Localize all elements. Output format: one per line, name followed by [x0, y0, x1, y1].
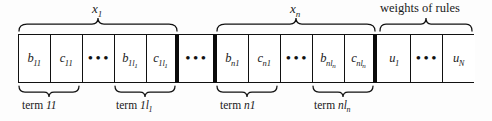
cell-bnln-text: bnln — [320, 52, 336, 65]
label-xn-sub: n — [296, 9, 301, 19]
cell-c11-text: c11 — [60, 52, 73, 65]
label-term-11: term 11 — [22, 100, 57, 112]
label-term-n1-prefix: term — [220, 99, 244, 111]
cell-u1-text: u1 — [389, 52, 400, 65]
cell-b11: b11 — [19, 35, 51, 82]
ellipsis-dots: ••• — [183, 51, 208, 66]
label-term-n1-main: n1 — [244, 99, 256, 111]
label-term-1l1: term 1l1 — [116, 100, 153, 112]
cell-ellipsis-weights: ••• — [411, 35, 443, 82]
label-weights-of-rules: weights of rules — [380, 2, 460, 15]
cell-ellipsis-variables: ••• — [179, 35, 217, 82]
cell-b1l1: b1l1 — [115, 35, 147, 82]
cell-uN: uN — [443, 35, 475, 82]
ellipsis-dots: ••• — [414, 51, 439, 66]
cell-ellipsis-termn: ••• — [281, 35, 313, 82]
cell-c1l1-text: c1l1 — [153, 52, 169, 65]
cell-b1l1-text: b1l1 — [122, 52, 138, 65]
cell-cnln: cnln — [345, 35, 377, 82]
label-term-nln: term nln — [314, 100, 351, 112]
label-x1-sub: 1 — [98, 9, 103, 19]
label-term-11-prefix: term — [22, 99, 46, 111]
brace-path-xn — [217, 18, 375, 31]
ellipsis-dots: ••• — [86, 51, 111, 66]
label-term-nln-prefix: term — [314, 99, 338, 111]
brace-path-termnln — [313, 86, 373, 97]
brace-path-term11 — [19, 86, 79, 97]
label-term-11-main: 11 — [46, 99, 57, 111]
brace-path-x1 — [19, 18, 177, 31]
cell-bn1-text: bn1 — [225, 52, 240, 65]
cell-bn1: bn1 — [217, 35, 249, 82]
brace-path-term1l1 — [115, 86, 175, 97]
cell-cnln-text: cnln — [351, 52, 367, 65]
cell-u1: u1 — [379, 35, 411, 82]
label-weights-text: weights of rules — [380, 1, 460, 15]
label-term-1l1-sub: 1 — [148, 105, 152, 114]
brace-path-weights — [380, 18, 472, 31]
figure-chromosome-encoding: x1 xn weights of rules b11 c11 ••• b1l1 … — [0, 0, 492, 121]
cell-c11: c11 — [51, 35, 83, 82]
cell-uN-text: uN — [453, 52, 465, 65]
label-term-1l1-prefix: term — [116, 99, 140, 111]
cell-bnln: bnln — [313, 35, 345, 82]
cell-cn1: cn1 — [249, 35, 281, 82]
ellipsis-dots: ••• — [284, 51, 309, 66]
cell-c1l1: c1l1 — [147, 35, 179, 82]
label-term-n1: term n1 — [220, 100, 255, 112]
label-xn: xn — [290, 2, 300, 19]
brace-path-termn1 — [217, 86, 277, 97]
cell-cn1-text: cn1 — [257, 52, 271, 65]
chromosome-strip: b11 c11 ••• b1l1 c1l1 ••• bn1 cn1 ••• bn… — [18, 34, 474, 83]
label-term-nln-sub: n — [346, 105, 350, 114]
label-x1: x1 — [92, 2, 102, 19]
cell-b11-text: b11 — [27, 52, 41, 65]
cell-ellipsis-term1: ••• — [83, 35, 115, 82]
